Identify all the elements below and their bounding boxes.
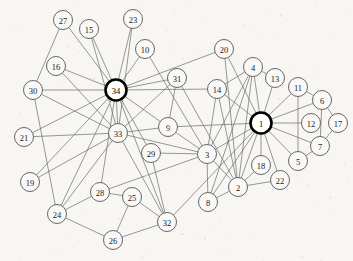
graph-node-28[interactable]: 28 [91,183,110,202]
node-circle-1[interactable] [251,113,272,134]
graph-edge [41,94,109,128]
node-circle-3[interactable] [198,145,217,164]
graph-node-22[interactable]: 22 [271,171,290,190]
node-circle-26[interactable] [104,231,123,250]
node-circle-15[interactable] [80,20,99,39]
graph-node-15[interactable]: 15 [80,20,99,39]
graph-edge [161,153,198,154]
graph-node-2[interactable]: 2 [229,178,248,197]
graph-edge [66,218,105,236]
graph-edge [208,98,215,144]
graph-edge [207,164,208,193]
node-circle-34[interactable] [106,80,127,101]
node-circle-7[interactable] [311,137,330,156]
graph-node-31[interactable]: 31 [168,69,187,88]
graph-node-17[interactable]: 17 [329,114,348,133]
node-circle-23[interactable] [124,10,143,29]
node-circle-27[interactable] [54,11,73,30]
graph-node-32[interactable]: 32 [158,213,177,232]
graph-edge [62,73,111,126]
graph-node-27[interactable]: 27 [54,11,73,30]
node-circle-11[interactable] [289,78,308,97]
node-circle-4[interactable] [244,58,263,77]
node-circle-2[interactable] [229,178,248,197]
node-circle-10[interactable] [136,40,155,59]
node-circle-31[interactable] [168,69,187,88]
node-circle-24[interactable] [48,205,67,224]
graph-node-18[interactable]: 18 [252,156,271,175]
graph-edge [140,203,160,217]
graph-node-3[interactable]: 3 [198,145,217,164]
node-circle-25[interactable] [123,188,142,207]
node-circle-6[interactable] [313,91,332,110]
graph-node-7[interactable]: 7 [311,137,330,156]
node-circle-9[interactable] [159,118,178,137]
graph-node-25[interactable]: 25 [123,188,142,207]
graph-edge [127,89,208,90]
graph-node-13[interactable]: 13 [266,69,285,88]
node-circle-32[interactable] [158,213,177,232]
node-circle-14[interactable] [208,80,227,99]
graph-node-5[interactable]: 5 [289,152,308,171]
graph-edge [33,133,108,136]
graph-node-34[interactable]: 34 [106,80,127,101]
node-circle-29[interactable] [142,144,161,163]
graph-edge [65,70,106,87]
graph-edge [247,182,270,186]
node-circle-17[interactable] [329,114,348,133]
network-graph-figure: 1234567891011121314151617181920212223242… [0,0,353,261]
graph-edge [225,58,237,177]
graph-node-6[interactable]: 6 [313,91,332,110]
graph-edge [116,100,117,123]
node-circle-8[interactable] [199,193,218,212]
graph-node-4[interactable]: 4 [244,58,263,77]
node-circle-19[interactable] [21,173,40,192]
graph-edge [245,172,254,181]
node-circle-33[interactable] [109,124,128,143]
node-circle-21[interactable] [15,128,34,147]
graph-edge [122,225,158,237]
node-circle-13[interactable] [266,69,285,88]
graph-edge [326,130,332,138]
graph-edge [306,92,313,96]
graph-node-24[interactable]: 24 [48,205,67,224]
graph-edge [127,135,198,152]
graph-node-20[interactable]: 20 [215,40,234,59]
node-circle-16[interactable] [47,57,66,76]
graph-node-8[interactable]: 8 [199,193,218,212]
node-circle-30[interactable] [24,81,43,100]
graph-node-23[interactable]: 23 [124,10,143,29]
graph-node-21[interactable]: 21 [15,128,34,147]
graph-node-14[interactable]: 14 [208,80,227,99]
edge-layer [32,28,332,237]
graph-edge [65,196,91,209]
graph-node-33[interactable]: 33 [109,124,128,143]
graph-edge [93,38,112,81]
graph-canvas: 1234567891011121314151617181920212223242… [0,0,353,261]
graph-node-16[interactable]: 16 [47,57,66,76]
graph-node-11[interactable]: 11 [289,78,308,97]
graph-node-10[interactable]: 10 [136,40,155,59]
node-circle-5[interactable] [289,152,308,171]
graph-node-9[interactable]: 9 [159,118,178,137]
node-circle-12[interactable] [302,114,321,133]
node-circle-18[interactable] [252,156,271,175]
graph-edge [122,57,139,82]
graph-node-1[interactable]: 1 [251,113,272,134]
node-circle-22[interactable] [271,171,290,190]
graph-node-29[interactable]: 29 [142,144,161,163]
graph-edge [35,99,55,204]
node-circle-28[interactable] [91,183,110,202]
graph-node-30[interactable]: 30 [24,81,43,100]
node-circle-20[interactable] [215,40,234,59]
graph-edge [109,193,122,195]
graph-edge [125,96,161,121]
node-layer: 1234567891011121314151617181920212223242… [15,10,348,250]
graph-node-26[interactable]: 26 [104,231,123,250]
graph-node-12[interactable]: 12 [302,114,321,133]
graph-edge [217,191,230,198]
graph-node-19[interactable]: 19 [21,173,40,192]
graph-edge [268,131,291,155]
graph-edge [262,71,267,74]
graph-edge [225,72,245,84]
